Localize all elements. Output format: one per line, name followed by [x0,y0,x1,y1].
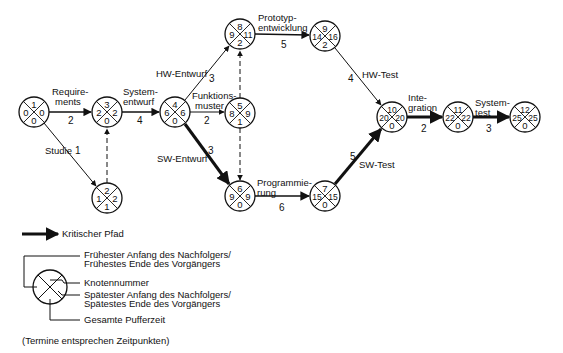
duration-systemtest: 3 [486,124,492,134]
duration-systementwurf: 4 [137,116,143,126]
node-9-right-value: 16 [328,32,338,42]
node-4-top-value: 4 [172,99,177,110]
node-5-right-value: 9 [245,108,250,119]
node-9-top-value: 9 [322,23,327,34]
node-9-left-value: 14 [312,32,322,42]
label-funktionsmuster-line2: muster [195,101,224,111]
label-sw-test: SW-Test [359,160,395,170]
label-systemtest-line2: test [475,108,490,118]
legend-note: (Termine entsprechen Zeitpunkten) [22,336,169,346]
node-3-bottom-value: 0 [104,115,109,126]
node-12-right-value: 25 [528,113,538,123]
duration-hw-entwurf: 3 [209,74,215,84]
label-integration-line2: gration [408,103,437,113]
duration-prototyp: 5 [281,40,287,50]
node-1-right-value: 0 [39,107,44,118]
node-5-top-value: 5 [237,100,242,111]
node-11: 1102222 [443,102,473,132]
node-4-left-value: 6 [164,107,169,118]
label-systementwurf-line2: entwurf [123,97,154,107]
duration-funktionsmuster: 2 [204,116,210,126]
node-2-bottom-value: 1 [104,201,109,212]
duration-integration: 2 [421,124,427,134]
node-6-right-value: 9 [245,191,250,202]
node-8-bottom-value: 2 [237,37,242,48]
arrow-prototypentwicklung [255,34,309,35]
node-5: 5189 [225,98,255,128]
node-11-right-value: 22 [461,113,471,123]
node-4: 4066 [160,97,190,127]
node-3: 3022 [92,97,122,127]
node-8-left-value: 9 [229,29,234,40]
legend-earliest-line2: Frühestes Ende des Vorgängers [84,259,220,269]
legend-critical-path: Kritischer Pfad [62,229,124,239]
node-2-left-value: 1 [96,193,101,204]
node-2: 2112 [92,183,122,213]
legend-node-number: Knotennummer [84,278,149,288]
node-12-bottom-value: 0 [522,120,527,131]
node-9: 921416 [310,21,340,51]
legend-latest-line2: Spätestes Ende des Vorgängers [84,299,220,309]
node-2-right-value: 2 [112,193,117,204]
label-requirements-line2: ments [55,97,81,107]
node-5-left-value: 8 [229,108,234,119]
node-3-top-value: 3 [104,99,109,110]
label-hw-test: HW-Test [362,70,398,80]
node-12-left-value: 25 [512,113,522,123]
node-4-right-value: 6 [180,107,185,118]
node-1-bottom-value: 0 [31,115,36,126]
node-11-left-value: 22 [445,113,455,123]
duration-hw-test: 4 [348,74,354,84]
node-9-bottom-value: 2 [322,39,327,50]
node-8-top-value: 8 [237,21,242,32]
node-6-top-value: 6 [237,183,242,194]
node-7-bottom-value: 0 [322,199,327,210]
node-6: 6099 [225,181,255,211]
node-7-left-value: 15 [312,192,322,202]
node-10-left-value: 20 [379,113,389,123]
label-programmierung-line2: rung [257,188,276,198]
legend-total-float: Gesamte Pufferzeit [84,315,165,325]
node-1-top-value: 1 [31,99,36,110]
label-hw-entwurf: HW-Entwurf [156,69,207,79]
duration-studie: 1 [75,146,81,156]
duration-requirements: 2 [68,116,74,126]
node-6-bottom-value: 0 [237,199,242,210]
duration-sw-test: 5 [350,152,356,162]
node-2-top-value: 2 [104,185,109,196]
node-6-left-value: 9 [229,191,234,202]
label-studie: Studie [45,146,72,156]
node-1: 1000 [19,97,49,127]
node-10-bottom-value: 0 [389,120,394,131]
node-7-top-value: 7 [322,183,327,194]
node-1-left-value: 0 [23,107,28,118]
node-10: 1002020 [377,102,407,132]
duration-sw-entwurf: 3 [208,146,214,156]
node-4-bottom-value: 0 [172,115,177,126]
node-3-left-value: 2 [96,107,101,118]
node-7: 701515 [310,181,340,211]
node-11-bottom-value: 0 [455,120,460,131]
arrow-sw-test [335,129,381,184]
node-8-right-value: 11 [244,30,253,40]
node-12: 1202525 [510,102,540,132]
label-sw-entwurf: SW-Entwurf [157,154,208,164]
node-3-right-value: 2 [112,107,117,118]
node-8: 82911 [225,19,255,49]
label-prototyp-line2: entwicklung [258,23,308,33]
duration-programmierung: 6 [279,203,285,213]
node-5-bottom-value: 1 [237,116,242,127]
node-7-right-value: 15 [328,192,338,202]
node-10-right-value: 20 [395,113,405,123]
legend-graphics [22,234,80,320]
